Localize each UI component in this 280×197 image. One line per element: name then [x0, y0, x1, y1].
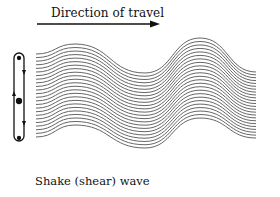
- diagram-canvas: [0, 0, 280, 197]
- direction-arrow: [37, 21, 160, 28]
- particle-motion-icon: [12, 53, 26, 141]
- caption: Shake (shear) wave: [35, 174, 150, 188]
- shear-wave-lines: [36, 38, 256, 148]
- wave-line: [36, 118, 256, 148]
